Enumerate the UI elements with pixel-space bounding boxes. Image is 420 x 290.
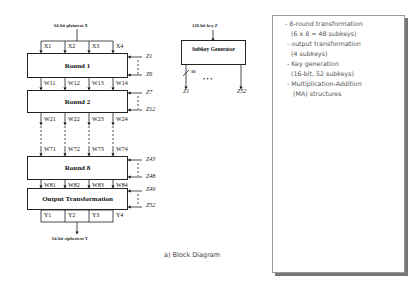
- input-x1-label: X1: [44, 43, 51, 49]
- note-line-7: - Multiplication-Addition: [273, 79, 404, 89]
- subkey-z12-label: Z12: [146, 106, 155, 112]
- w21-label: W21: [44, 116, 56, 122]
- diagram-caption: a) Block Diagram: [164, 251, 220, 259]
- subkey-z1-label: Z1: [146, 53, 152, 59]
- w14-label: W14: [116, 80, 128, 86]
- w22-label: W22: [68, 116, 80, 122]
- note-line-6: (16-bit, 52 subkeys): [273, 69, 404, 79]
- w73-label: W73: [92, 146, 104, 152]
- note-line-1: - 8-round transformation: [273, 19, 404, 29]
- subkey-gen-z1-label: Z1: [183, 88, 189, 94]
- subkey-z7-label: Z7: [146, 89, 152, 95]
- notes-panel: - 8-round transformation (6 x 8 = 48 sub…: [272, 15, 405, 273]
- note-line-5: - Key generation: [273, 59, 404, 69]
- note-line-2: (6 x 8 = 48 subkeys): [273, 29, 404, 39]
- subkey-generator-block: Subkey Generator: [181, 40, 246, 65]
- bit-width-label: 16: [191, 69, 196, 74]
- input-x3-label: X3: [92, 43, 99, 49]
- w74-label: W74: [116, 146, 128, 152]
- w11-label: W11: [44, 80, 55, 86]
- subkey-z52-label: Z52: [146, 202, 155, 208]
- w13-label: W13: [92, 80, 104, 86]
- w71-label: W71: [44, 146, 56, 152]
- input-x2-label: X2: [68, 43, 75, 49]
- w72-label: W72: [68, 146, 80, 152]
- key-input-label: 128-bit key Z: [192, 23, 218, 28]
- w24-label: W24: [116, 116, 128, 122]
- round-2-block: Round 2: [27, 90, 128, 113]
- note-line-8: (MA) structures: [273, 89, 404, 99]
- round-8-label: Round 8: [65, 164, 90, 172]
- subkey-z49-label: Z49: [146, 186, 155, 192]
- output-y2-label: Y2: [68, 212, 75, 218]
- round-1-block: Round 1: [27, 53, 128, 78]
- input-x4-label: X4: [116, 43, 123, 49]
- subkey-z43-label: Z43: [146, 156, 155, 162]
- round-8-block: Round 8: [27, 156, 128, 180]
- output-transformation-block: Output Transformation: [27, 188, 128, 210]
- w12-label: W12: [68, 80, 80, 86]
- round-2-label: Round 2: [65, 98, 90, 106]
- subkey-gen-z52-label: Z52: [237, 88, 246, 94]
- output-y4-label: Y4: [116, 212, 123, 218]
- output-transformation-label: Output Transformation: [42, 195, 113, 203]
- output-y1-label: Y1: [44, 212, 51, 218]
- subkey-generator-label: Subkey Generator: [192, 46, 235, 52]
- subkey-z48-label: Z48: [146, 173, 155, 179]
- ellipsis-dots: • • •: [203, 76, 212, 82]
- output-y3-label: Y3: [92, 212, 99, 218]
- ciphertext-label: 64-bit ciphertext Y: [52, 236, 88, 241]
- subkey-z6-label: Z6: [146, 71, 152, 77]
- w23-label: W23: [92, 116, 104, 122]
- note-line-3: - output transformation: [273, 39, 404, 49]
- plaintext-label: 64-bit plaintext X: [54, 23, 88, 28]
- note-line-4: (4 subkeys): [273, 49, 404, 59]
- round-1-label: Round 1: [65, 62, 90, 70]
